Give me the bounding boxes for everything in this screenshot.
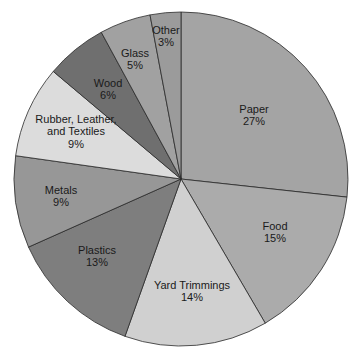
pie-chart: Paper27%Food15%Yard Trimmings14%Plastics… bbox=[0, 0, 362, 349]
slice-label: Food15% bbox=[262, 220, 287, 245]
slice-label: Paper27% bbox=[239, 103, 269, 128]
